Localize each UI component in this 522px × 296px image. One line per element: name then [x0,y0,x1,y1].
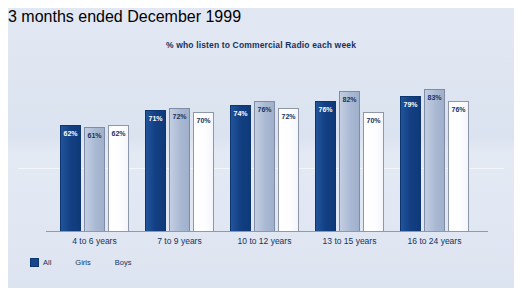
bar-group: 71%72%70% [145,60,214,232]
bar-girls[interactable]: 61% [84,127,105,232]
bar-girls[interactable]: 82% [339,91,360,232]
legend-item-boys[interactable]: Boys [102,258,132,267]
x-axis-line [46,231,488,232]
bar-wrapper: 72% [278,108,299,232]
category-label-3: 13 to 15 years [307,236,392,246]
bar-girls[interactable]: 72% [169,108,190,232]
category-label-0: 4 to 6 years [52,236,137,246]
bar-wrapper: 62% [60,125,81,232]
bar-value-label: 72% [170,113,189,120]
category-label-4: 16 to 24 years [392,236,477,246]
bar-value-label: 82% [340,96,359,103]
legend-item-all[interactable]: All [30,258,51,267]
plot-area: 62%61%62%71%72%70%74%76%72%76%82%70%79%8… [54,60,482,232]
bar-value-label: 76% [316,106,335,113]
chart-footnote: 3 months ended December 1999 [8,8,514,26]
bar-wrapper: 82% [339,91,360,232]
bar-girls[interactable]: 76% [254,101,275,232]
bar-boys[interactable]: 70% [363,112,384,232]
category-label-2: 10 to 12 years [222,236,307,246]
bar-wrapper: 61% [84,127,105,232]
bar-all[interactable]: 79% [400,96,421,232]
legend-item-girls[interactable]: Girls [62,258,90,267]
bar-wrapper: 72% [169,108,190,232]
bar-boys[interactable]: 70% [193,112,214,232]
bar-all[interactable]: 74% [230,105,251,232]
bar-value-label: 71% [146,115,165,122]
bar-all[interactable]: 71% [145,110,166,232]
legend-swatch-girls-icon [62,258,71,267]
legend-label: Girls [75,258,90,267]
bar-wrapper: 71% [145,110,166,232]
bar-value-label: 83% [425,94,444,101]
bar-all[interactable]: 62% [60,125,81,232]
bar-wrapper: 76% [448,101,469,232]
bar-girls[interactable]: 83% [424,89,445,232]
bar-wrapper: 62% [108,125,129,232]
legend-label: Boys [115,258,132,267]
bar-group: 79%83%76% [400,60,469,232]
bar-wrapper: 70% [193,112,214,232]
chart-legend: AllGirlsBoys [30,258,131,267]
legend-swatch-all-icon [30,258,39,267]
bar-wrapper: 76% [315,101,336,232]
category-label-1: 7 to 9 years [137,236,222,246]
bar-value-label: 62% [109,130,128,137]
bar-wrapper: 76% [254,101,275,232]
bar-wrapper: 74% [230,105,251,232]
bar-wrapper: 79% [400,96,421,232]
bar-value-label: 74% [231,110,250,117]
bar-boys[interactable]: 62% [108,125,129,232]
bar-value-label: 76% [449,106,468,113]
bar-wrapper: 83% [424,89,445,232]
chart-title: % who listen to Commercial Radio each we… [8,40,514,50]
bar-group: 76%82%70% [315,60,384,232]
bar-value-label: 72% [279,113,298,120]
bar-boys[interactable]: 76% [448,101,469,232]
bar-wrapper: 70% [363,112,384,232]
bar-boys[interactable]: 72% [278,108,299,232]
legend-label: All [43,258,51,267]
bar-group: 62%61%62% [60,60,129,232]
bar-value-label: 70% [194,117,213,124]
legend-swatch-boys-icon [102,258,111,267]
bar-value-label: 62% [61,130,80,137]
bar-value-label: 79% [401,101,420,108]
bar-value-label: 61% [85,132,104,139]
bar-value-label: 70% [364,117,383,124]
bar-all[interactable]: 76% [315,101,336,232]
bar-group: 74%76%72% [230,60,299,232]
bar-value-label: 76% [255,106,274,113]
chart-figure: % who listen to Commercial Radio each we… [8,8,514,288]
